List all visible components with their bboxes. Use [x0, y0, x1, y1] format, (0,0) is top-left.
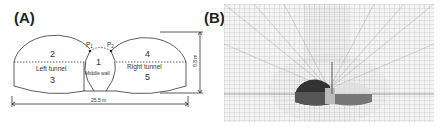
finite-element-mesh [224, 4, 434, 122]
region-1-label: 1 [96, 57, 101, 67]
width-dimension-label: 25.5 m [91, 97, 106, 103]
region-3-label: 3 [50, 75, 55, 85]
region-5-label: 5 [145, 72, 150, 82]
middle-wall-label: Middle wall [85, 70, 110, 76]
tunnel-cross-section-diagram: 2 Left tunnel 3 1 Middle wall 4 Right tu… [0, 0, 215, 133]
right-tunnel-label: Right tunnel [127, 63, 162, 71]
region-2-label: 2 [50, 49, 55, 59]
region-4-label: 4 [145, 49, 150, 59]
height-dimension-label: 9.8 m [192, 54, 198, 67]
point-p1-label: P1 [86, 41, 93, 49]
point-p2-label: P2 [107, 41, 114, 49]
left-tunnel-label: Left tunnel [36, 65, 67, 72]
